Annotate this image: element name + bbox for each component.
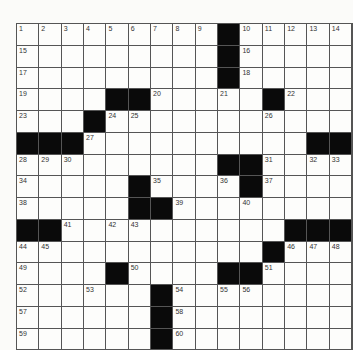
grid-cell[interactable]: 58 (173, 307, 194, 328)
grid-cell[interactable] (307, 68, 328, 89)
grid-cell[interactable] (151, 155, 172, 176)
grid-cell[interactable] (129, 329, 150, 350)
grid-cell[interactable] (240, 242, 261, 263)
grid-cell[interactable]: 51 (263, 263, 284, 284)
grid-cell[interactable] (84, 198, 105, 219)
grid-cell[interactable] (39, 285, 60, 306)
grid-cell[interactable]: 57 (17, 307, 38, 328)
grid-cell[interactable] (106, 198, 127, 219)
grid-cell[interactable]: 10 (240, 24, 261, 45)
grid-cell[interactable] (173, 68, 194, 89)
grid-cell[interactable] (173, 111, 194, 132)
grid-cell[interactable] (196, 263, 217, 284)
grid-cell[interactable] (129, 307, 150, 328)
grid-cell[interactable]: 32 (307, 155, 328, 176)
grid-cell[interactable] (285, 263, 306, 284)
grid-cell[interactable] (62, 263, 83, 284)
grid-cell[interactable] (307, 329, 328, 350)
grid-cell[interactable] (196, 155, 217, 176)
grid-cell[interactable]: 45 (39, 242, 60, 263)
grid-cell[interactable] (307, 307, 328, 328)
grid-cell[interactable] (330, 46, 351, 67)
grid-cell[interactable] (240, 111, 261, 132)
grid-cell[interactable] (106, 242, 127, 263)
grid-cell[interactable] (62, 242, 83, 263)
grid-cell[interactable]: 29 (39, 155, 60, 176)
grid-cell[interactable] (39, 329, 60, 350)
grid-cell[interactable]: 50 (129, 263, 150, 284)
grid-cell[interactable] (307, 285, 328, 306)
grid-cell[interactable] (106, 176, 127, 197)
grid-cell[interactable]: 20 (151, 89, 172, 110)
grid-cell[interactable] (307, 111, 328, 132)
grid-cell[interactable] (84, 89, 105, 110)
grid-cell[interactable] (84, 68, 105, 89)
grid-cell[interactable]: 21 (218, 89, 239, 110)
grid-cell[interactable] (129, 133, 150, 154)
grid-cell[interactable] (62, 46, 83, 67)
grid-cell[interactable] (62, 285, 83, 306)
grid-cell[interactable] (330, 176, 351, 197)
grid-cell[interactable]: 56 (240, 285, 261, 306)
grid-cell[interactable] (218, 220, 239, 241)
grid-cell[interactable] (196, 198, 217, 219)
grid-cell[interactable] (196, 329, 217, 350)
grid-cell[interactable] (196, 46, 217, 67)
grid-cell[interactable] (218, 329, 239, 350)
grid-cell[interactable] (330, 263, 351, 284)
grid-cell[interactable]: 16 (240, 46, 261, 67)
grid-cell[interactable] (196, 68, 217, 89)
grid-cell[interactable]: 48 (330, 242, 351, 263)
grid-cell[interactable] (84, 220, 105, 241)
grid-cell[interactable] (218, 307, 239, 328)
grid-cell[interactable]: 8 (173, 24, 194, 45)
grid-cell[interactable]: 24 (106, 111, 127, 132)
grid-cell[interactable] (129, 46, 150, 67)
grid-cell[interactable] (285, 46, 306, 67)
grid-cell[interactable] (106, 329, 127, 350)
grid-cell[interactable] (263, 329, 284, 350)
grid-cell[interactable] (62, 329, 83, 350)
grid-cell[interactable] (263, 133, 284, 154)
grid-cell[interactable] (330, 307, 351, 328)
grid-cell[interactable] (263, 220, 284, 241)
grid-cell[interactable]: 17 (17, 68, 38, 89)
grid-cell[interactable] (196, 111, 217, 132)
grid-cell[interactable] (39, 307, 60, 328)
grid-cell[interactable] (285, 176, 306, 197)
grid-cell[interactable] (173, 133, 194, 154)
grid-cell[interactable]: 37 (263, 176, 284, 197)
grid-cell[interactable] (173, 46, 194, 67)
grid-cell[interactable]: 11 (263, 24, 284, 45)
grid-cell[interactable] (330, 198, 351, 219)
grid-cell[interactable]: 35 (151, 176, 172, 197)
grid-cell[interactable] (218, 198, 239, 219)
grid-cell[interactable] (173, 89, 194, 110)
grid-cell[interactable] (129, 155, 150, 176)
grid-cell[interactable] (240, 89, 261, 110)
grid-cell[interactable] (84, 46, 105, 67)
grid-cell[interactable] (84, 307, 105, 328)
grid-cell[interactable] (330, 89, 351, 110)
grid-cell[interactable]: 44 (17, 242, 38, 263)
grid-cell[interactable]: 34 (17, 176, 38, 197)
grid-cell[interactable]: 27 (84, 133, 105, 154)
grid-cell[interactable] (106, 285, 127, 306)
grid-cell[interactable] (84, 242, 105, 263)
grid-cell[interactable]: 30 (62, 155, 83, 176)
grid-cell[interactable] (263, 285, 284, 306)
grid-cell[interactable] (330, 68, 351, 89)
grid-cell[interactable] (263, 198, 284, 219)
grid-cell[interactable]: 38 (17, 198, 38, 219)
grid-cell[interactable]: 18 (240, 68, 261, 89)
grid-cell[interactable]: 41 (62, 220, 83, 241)
grid-cell[interactable] (129, 242, 150, 263)
grid-cell[interactable] (62, 68, 83, 89)
grid-cell[interactable] (39, 46, 60, 67)
grid-cell[interactable]: 46 (285, 242, 306, 263)
grid-cell[interactable] (173, 176, 194, 197)
grid-cell[interactable] (39, 263, 60, 284)
grid-cell[interactable] (285, 155, 306, 176)
grid-cell[interactable] (263, 46, 284, 67)
grid-cell[interactable]: 4 (84, 24, 105, 45)
